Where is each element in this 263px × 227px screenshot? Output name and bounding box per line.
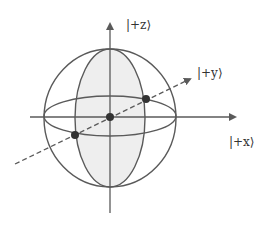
center-point (106, 113, 114, 121)
front-left-point (71, 131, 79, 139)
label-plus-y: |+y⟩ (197, 66, 223, 80)
label-plus-x: |+x⟩ (229, 135, 255, 149)
bloch-sphere-diagram: |+z⟩ |+y⟩ |+x⟩ (0, 0, 263, 227)
back-right-point (142, 95, 150, 103)
label-plus-z: |+z⟩ (126, 18, 151, 32)
